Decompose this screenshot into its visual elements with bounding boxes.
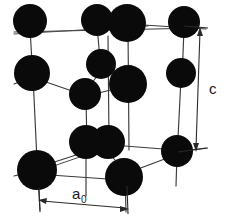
a0-axis-label-subscript: 0 bbox=[81, 194, 87, 205]
c-axis-label: c bbox=[209, 80, 217, 97]
atom-interior-right bbox=[109, 65, 147, 103]
a0-axis-label: a bbox=[72, 185, 81, 202]
atom-interior-upper bbox=[86, 49, 116, 79]
c-arrow-shaft bbox=[196, 31, 200, 148]
c-arrow-head-down bbox=[193, 143, 199, 152]
atom-interior-left bbox=[69, 78, 101, 110]
atom-top-back-mid-a bbox=[81, 4, 113, 36]
atoms-group bbox=[13, 4, 200, 196]
atom-bottom-front-mid bbox=[105, 158, 143, 196]
atom-bottom-front-left bbox=[17, 150, 57, 190]
atom-top-back-right bbox=[168, 6, 200, 38]
crystal-structure-figure: c a 0 bbox=[0, 0, 232, 222]
atom-top-back-left bbox=[13, 4, 47, 38]
atom-top-back-mid-b bbox=[108, 4, 146, 42]
atom-bottom-back-b bbox=[91, 125, 125, 159]
crystal-lattice-diagram: c a 0 bbox=[0, 0, 232, 222]
atom-mid-front-left bbox=[14, 55, 50, 91]
atom-mid-right bbox=[166, 58, 196, 88]
